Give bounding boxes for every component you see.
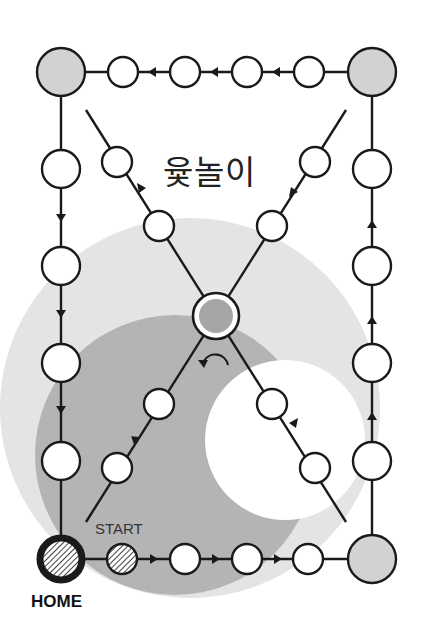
start-node [107, 544, 137, 574]
yut-board [0, 0, 422, 641]
bottom-side-nodes [170, 544, 323, 574]
board-title: 윷놀이 [163, 146, 256, 194]
home-label: HOME [31, 592, 82, 612]
corner-top-right [348, 48, 396, 96]
white-hole [205, 360, 365, 520]
corner-top-left [37, 48, 85, 96]
corner-bottom-right [348, 535, 396, 583]
start-label: START [95, 520, 143, 537]
home-node [40, 538, 82, 580]
